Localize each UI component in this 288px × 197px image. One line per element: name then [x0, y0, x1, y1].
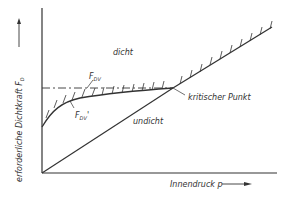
undicht-line	[42, 88, 173, 173]
critical-point-leader	[173, 88, 185, 95]
hatching-curve	[46, 81, 164, 118]
fdv-prime-label: FDV'	[75, 111, 89, 121]
y-axis-label: erforderliche Dichtkraft FD	[15, 77, 25, 182]
x-axis-arrow-head	[244, 182, 252, 186]
boundary-line	[173, 27, 272, 88]
fdv-prime-leader	[70, 101, 74, 108]
fdv-label: FDV	[89, 72, 101, 82]
critical-point-label: kritischer Punkt	[188, 93, 251, 102]
x-axis-label: Innendruck p	[170, 180, 223, 189]
y-axis-arrow-head	[17, 18, 21, 24]
region-dicht-label: dicht	[113, 48, 134, 57]
sealing-force-diagram: erforderliche Dichtkraft FD Innendruck p…	[0, 0, 288, 197]
region-undicht-label: undicht	[133, 117, 164, 126]
fdv-leader	[87, 80, 93, 88]
